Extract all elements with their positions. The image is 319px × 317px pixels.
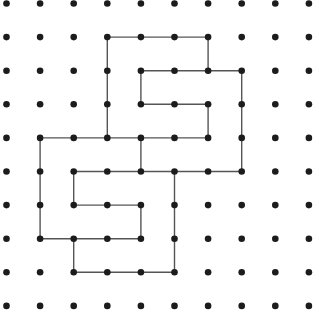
grid-dot — [306, 101, 313, 108]
grid-dot — [70, 168, 77, 175]
grid-dots — [3, 0, 312, 309]
grid-dot — [3, 135, 10, 142]
grid-dot — [138, 202, 145, 209]
grid-dot — [306, 303, 313, 310]
grid-dot — [171, 235, 178, 242]
grid-dot — [3, 235, 10, 242]
grid-dot — [37, 34, 44, 41]
grid-dot — [306, 135, 313, 142]
grid-dot — [272, 67, 279, 74]
grid-dot — [104, 235, 111, 242]
grid-dot — [171, 0, 178, 7]
grid-dot — [171, 135, 178, 142]
grid-dot — [138, 235, 145, 242]
grid-dot — [138, 269, 145, 276]
grid-dot — [171, 101, 178, 108]
grid-dot — [306, 0, 313, 7]
grid-dot — [205, 34, 212, 41]
grid-dot — [171, 269, 178, 276]
grid-dot — [272, 101, 279, 108]
grid-dot — [3, 67, 10, 74]
grid-dot — [238, 67, 245, 74]
grid-dot — [3, 101, 10, 108]
grid-dot — [238, 135, 245, 142]
grid-dot — [104, 34, 111, 41]
grid-dot — [70, 235, 77, 242]
grid-dot — [138, 168, 145, 175]
grid-dot — [70, 34, 77, 41]
grid-dot — [238, 34, 245, 41]
grid-dot — [272, 303, 279, 310]
grid-dot — [306, 168, 313, 175]
grid-dot — [37, 101, 44, 108]
grid-dot — [205, 135, 212, 142]
grid-dot — [37, 67, 44, 74]
grid-dot — [306, 67, 313, 74]
grid-dot — [104, 168, 111, 175]
grid-dot — [37, 202, 44, 209]
grid-dot — [104, 101, 111, 108]
grid-dot — [306, 202, 313, 209]
grid-dot — [272, 135, 279, 142]
grid-dot — [171, 34, 178, 41]
grid-dot — [104, 303, 111, 310]
grid-dot — [70, 269, 77, 276]
grid-dot — [238, 168, 245, 175]
grid-dot — [205, 168, 212, 175]
grid-dot — [138, 135, 145, 142]
grid-dot — [272, 269, 279, 276]
grid-dot — [138, 34, 145, 41]
grid-dot — [37, 168, 44, 175]
grid-dot — [171, 67, 178, 74]
grid-dot — [171, 168, 178, 175]
grid-dot — [70, 202, 77, 209]
grid-dot — [306, 34, 313, 41]
grid-dot — [70, 67, 77, 74]
grid-dot — [238, 202, 245, 209]
grid-dot — [306, 235, 313, 242]
grid-dot — [70, 0, 77, 7]
grid-dot — [238, 235, 245, 242]
grid-dot — [171, 303, 178, 310]
grid-dot — [37, 235, 44, 242]
grid-dot — [238, 101, 245, 108]
grid-dot — [205, 67, 212, 74]
grid-dot — [104, 202, 111, 209]
grid-dot — [138, 0, 145, 7]
grid-dot — [70, 101, 77, 108]
path-segment-3 — [74, 172, 175, 273]
dot-grid-diagram — [0, 0, 319, 317]
grid-dot — [104, 135, 111, 142]
grid-dot — [138, 303, 145, 310]
grid-dot — [37, 0, 44, 7]
grid-dot — [272, 235, 279, 242]
grid-dot — [238, 269, 245, 276]
grid-dot — [138, 67, 145, 74]
grid-dot — [272, 168, 279, 175]
grid-dot — [70, 135, 77, 142]
grid-dot — [205, 235, 212, 242]
grid-dot — [272, 0, 279, 7]
grid-dot — [272, 34, 279, 41]
grid-dot — [104, 0, 111, 7]
grid-dot — [205, 303, 212, 310]
grid-dot — [306, 269, 313, 276]
grid-dot — [272, 202, 279, 209]
grid-dot — [37, 135, 44, 142]
grid-dot — [3, 0, 10, 7]
grid-dot — [205, 269, 212, 276]
grid-dot — [205, 202, 212, 209]
grid-dot — [37, 269, 44, 276]
grid-dot — [3, 168, 10, 175]
grid-dot — [104, 67, 111, 74]
grid-dot — [37, 303, 44, 310]
grid-dot — [70, 303, 77, 310]
grid-dot — [238, 303, 245, 310]
grid-dot — [138, 101, 145, 108]
grid-dot — [238, 0, 245, 7]
grid-dot — [171, 202, 178, 209]
grid-dot — [3, 303, 10, 310]
grid-dot — [205, 0, 212, 7]
grid-dot — [205, 101, 212, 108]
grid-dot — [3, 269, 10, 276]
